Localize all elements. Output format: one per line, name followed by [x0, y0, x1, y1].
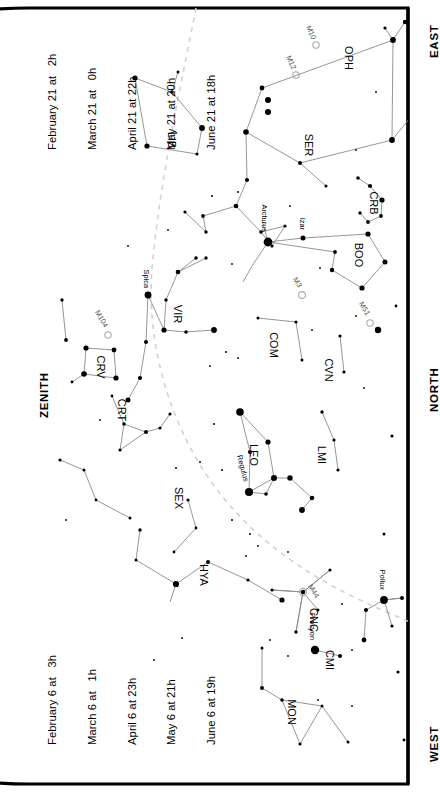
- label-sex: SEX: [173, 487, 185, 510]
- label-ser: SER: [303, 134, 315, 157]
- label-crb: CRB: [368, 191, 380, 214]
- direction-label-west: WEST: [428, 726, 440, 762]
- direction-label-east: EAST: [428, 25, 440, 58]
- date-line: March 21 at 0h: [86, 54, 99, 150]
- date-line: May 6 at 21h: [165, 655, 178, 745]
- date-caption-lower: February 6 at 3h March 6 at 1h April 6 a…: [20, 655, 244, 745]
- direction-label-north: NORTH: [428, 368, 440, 412]
- label-cmi: CMI: [324, 650, 336, 670]
- date-line: March 6 at 1h: [86, 655, 99, 745]
- date-caption-upper: February 21 at 2h March 21 at 0h April 2…: [20, 54, 244, 150]
- date-line: April 21 at 22h: [126, 54, 139, 150]
- date-line: May 21 at 20h: [165, 54, 178, 150]
- label-spica: Spica: [142, 270, 151, 289]
- date-line: February 21 at 2h: [46, 54, 59, 150]
- label-mon: MON: [286, 699, 298, 725]
- date-line: June 6 at 19h: [205, 655, 218, 745]
- label-pollux: Pollux: [378, 570, 387, 590]
- label-vir: VIR: [172, 305, 184, 323]
- label-oph: OPH: [343, 46, 355, 70]
- label-hya: HYA: [198, 564, 210, 586]
- label-cvn: CVN: [323, 358, 335, 381]
- label-arcturus: Arcturus: [260, 204, 269, 232]
- label-izar: Izar: [298, 218, 307, 231]
- date-line: February 6 at 3h: [46, 655, 59, 745]
- label-com: COM: [268, 332, 280, 358]
- label-lmi: LMI: [316, 446, 328, 464]
- label-crt: CRT: [116, 399, 128, 422]
- label-leo: LEO: [248, 444, 260, 466]
- label-procyon: Procyon: [308, 613, 317, 640]
- label-boo: BOO: [353, 243, 365, 268]
- date-line: June 21 at 18h: [205, 54, 218, 150]
- date-line: April 6 at 23h: [126, 655, 139, 745]
- direction-label-zenith: ZENITH: [38, 372, 50, 418]
- label-crv: CRV: [95, 355, 107, 379]
